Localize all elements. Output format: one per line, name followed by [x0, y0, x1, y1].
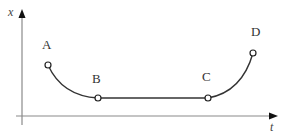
point-d-label: D	[251, 24, 260, 39]
point-d	[250, 50, 256, 56]
point-c	[205, 95, 211, 101]
point-b-label: B	[92, 71, 101, 86]
y-axis-label: x	[7, 5, 14, 19]
y-axis-arrow-icon	[19, 9, 26, 18]
point-b	[95, 95, 101, 101]
point-a	[45, 62, 51, 68]
position-time-diagram: x t A B C D	[0, 0, 290, 132]
point-c-label: C	[202, 69, 211, 84]
segment-a-b	[48, 65, 98, 98]
x-axis-label: t	[270, 120, 274, 132]
point-a-label: A	[42, 37, 52, 52]
x-axis-arrow-icon	[269, 113, 278, 120]
segment-c-d	[208, 53, 253, 98]
diagram-svg: x t A B C D	[0, 0, 290, 132]
